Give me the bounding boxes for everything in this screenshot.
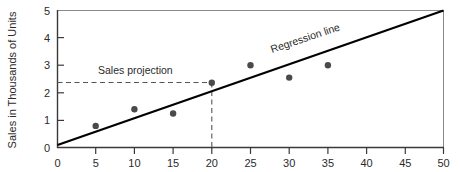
data-point bbox=[131, 106, 137, 112]
x-tick-label-50: 50 bbox=[437, 157, 449, 169]
data-point bbox=[286, 74, 292, 80]
x-tick-label-5: 5 bbox=[93, 157, 99, 169]
y-axis-title: Sales in Thousands of Units bbox=[6, 11, 18, 148]
y-tick-label-1: 1 bbox=[44, 114, 50, 126]
x-tick-label-30: 30 bbox=[283, 157, 295, 169]
x-tick-label-25: 25 bbox=[244, 157, 256, 169]
x-tick-label-35: 35 bbox=[322, 157, 334, 169]
regression-scatter-chart: 0 1 2 3 4 5 0 5 10 15 20 25 30 35 40 45 … bbox=[0, 0, 460, 172]
y-tick-label-4: 4 bbox=[44, 32, 50, 44]
y-tick-label-3: 3 bbox=[44, 59, 50, 71]
x-tick-label-40: 40 bbox=[360, 157, 372, 169]
data-point bbox=[247, 62, 253, 68]
x-tick-label-20: 20 bbox=[206, 157, 218, 169]
y-tick-label-2: 2 bbox=[44, 87, 50, 99]
chart-canvas: 0 1 2 3 4 5 0 5 10 15 20 25 30 35 40 45 … bbox=[0, 0, 460, 172]
data-point bbox=[209, 80, 215, 86]
y-tick-label-0: 0 bbox=[44, 142, 50, 154]
data-point bbox=[170, 110, 176, 116]
sales-projection-label: Sales projection bbox=[98, 64, 173, 76]
data-point bbox=[93, 123, 99, 129]
x-tick-label-45: 45 bbox=[399, 157, 411, 169]
x-tick-label-15: 15 bbox=[167, 157, 179, 169]
y-tick-label-5: 5 bbox=[44, 5, 50, 17]
x-tick-label-0: 0 bbox=[54, 157, 60, 169]
data-point bbox=[325, 62, 331, 68]
x-tick-label-10: 10 bbox=[128, 157, 140, 169]
